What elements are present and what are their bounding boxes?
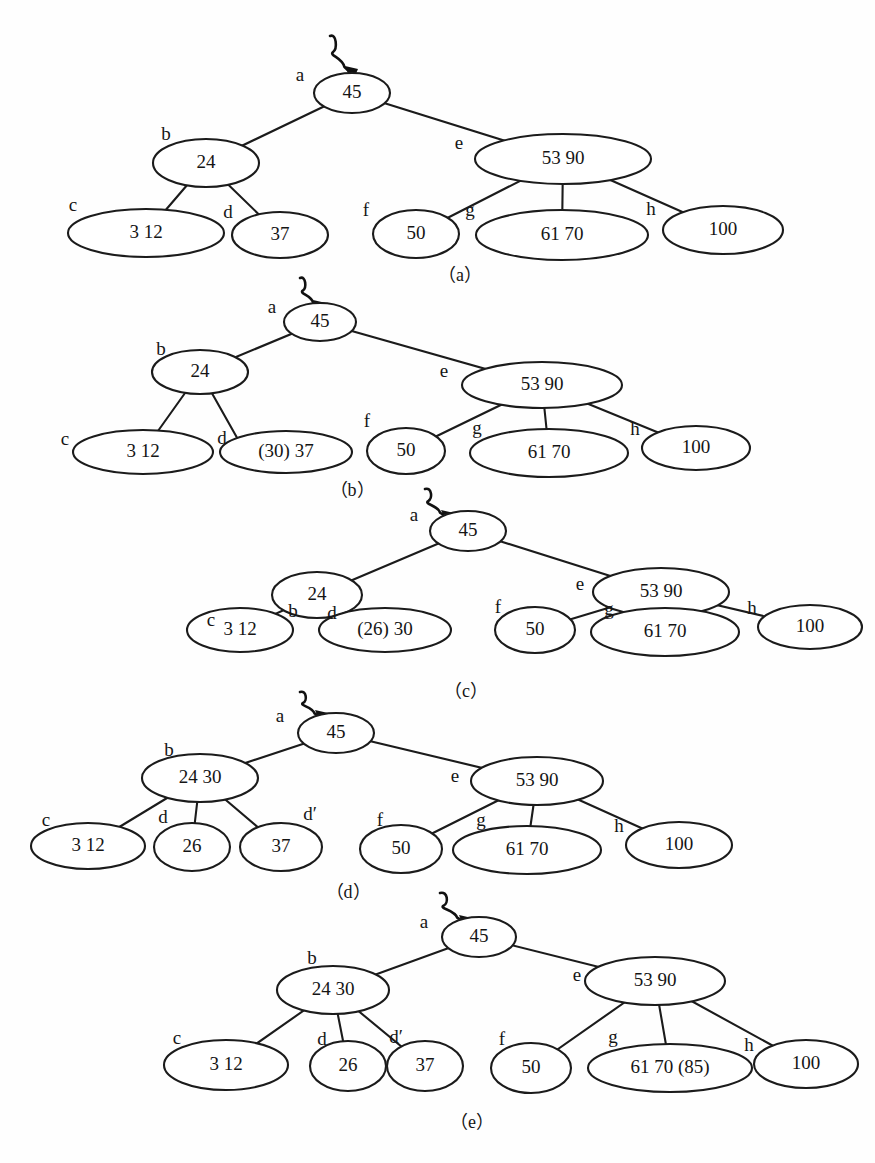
tree-node-d-b[interactable]: 24 30b — [142, 739, 258, 802]
node-keys-label: 50 — [407, 222, 426, 243]
node-keys-label: 24 30 — [312, 978, 355, 999]
panel-a: 45a24b53 90e3 12c37d50f61 70g100h（a） — [68, 36, 783, 286]
tree-node-a-b[interactable]: 24b — [153, 123, 259, 187]
tree-node-e-b[interactable]: 24 30b — [277, 947, 389, 1014]
node-keys-label: 61 70 — [528, 441, 571, 462]
panel-c: 45a24b53 90e3 12c(26) 30d50f61 70g100h（c… — [187, 489, 862, 701]
node-tag-label: f — [377, 809, 384, 830]
node-keys-label: 37 — [271, 223, 290, 244]
tree-node-a-h[interactable]: 100h — [646, 198, 783, 254]
tree-node-d-e[interactable]: 53 90e — [451, 757, 603, 805]
tree-node-a-g[interactable]: 61 70g — [465, 199, 648, 260]
node-keys-label: 50 — [392, 837, 411, 858]
tree-node-d-d[interactable]: 26d — [154, 806, 230, 871]
tree-node-b-a[interactable]: 45a — [268, 296, 356, 341]
tree-node-c-h[interactable]: 100h — [747, 597, 862, 649]
tree-node-d-g[interactable]: 61 70g — [453, 809, 601, 874]
tree-node-a-f[interactable]: 50f — [363, 199, 459, 258]
node-keys-label: 61 70 (85) — [630, 1056, 709, 1078]
node-tag-label: e — [451, 765, 459, 786]
node-keys-label: 3 12 — [129, 221, 162, 242]
node-keys-label: 50 — [397, 439, 416, 460]
tree-node-e-d2[interactable]: 37d′ — [387, 1026, 463, 1091]
node-tag-label: b — [307, 947, 317, 968]
node-tag-label: d — [317, 1028, 327, 1049]
node-tag-label: b — [288, 600, 298, 621]
panel-d: 45a24 30b53 90e3 12c26d37d′50f61 70g100h… — [31, 692, 732, 902]
tree-node-b-c[interactable]: 3 12c — [61, 428, 213, 474]
tree-node-d-d2[interactable]: 37d′ — [240, 803, 322, 871]
node-tag-label: d — [158, 806, 168, 827]
tree-node-c-a[interactable]: 45a — [410, 504, 506, 551]
tree-node-c-f[interactable]: 50f — [495, 596, 575, 653]
tree-node-e-e[interactable]: 53 90e — [573, 957, 725, 1005]
node-keys-label: 100 — [665, 833, 694, 854]
panel-caption-a: （a） — [438, 265, 482, 285]
tree-node-b-e[interactable]: 53 90e — [440, 360, 622, 408]
node-tag-label: e — [440, 360, 448, 381]
node-tag-label: d — [217, 427, 227, 448]
tree-node-e-d[interactable]: 26d — [310, 1028, 386, 1091]
node-tag-label: a — [276, 705, 285, 726]
node-tag-label: a — [268, 296, 277, 317]
tree-node-b-d[interactable]: (30) 37d — [217, 427, 352, 473]
tree-node-c-c[interactable]: 3 12c — [187, 608, 293, 652]
node-keys-label: 100 — [792, 1052, 821, 1073]
tree-node-d-c[interactable]: 3 12c — [31, 809, 145, 869]
node-tag-label: b — [161, 123, 171, 144]
node-tag-label: a — [410, 504, 419, 525]
node-tag-label: h — [747, 597, 757, 618]
tree-node-b-g[interactable]: 61 70g — [470, 417, 628, 477]
node-tag-label: f — [364, 410, 371, 431]
node-tag-label: c — [173, 1027, 181, 1048]
tree-node-a-a[interactable]: 45a — [296, 64, 390, 113]
node-keys-label: 53 90 — [640, 580, 683, 601]
node-keys-label: 53 90 — [634, 969, 677, 990]
node-keys-label: 3 12 — [223, 618, 256, 639]
node-keys-label: 24 — [308, 583, 328, 604]
node-tag-label: d — [223, 201, 233, 222]
tree-node-e-h[interactable]: 100h — [744, 1034, 858, 1088]
node-keys-label: 26 — [183, 835, 202, 856]
tree-node-e-f[interactable]: 50f — [491, 1028, 571, 1093]
tree-node-e-a[interactable]: 45a — [420, 911, 516, 957]
tree-node-a-d[interactable]: 37d — [223, 201, 328, 258]
node-keys-label: 26 — [339, 1054, 358, 1075]
node-tag-label: c — [61, 428, 69, 449]
btree-figure-svg: 45a24b53 90e3 12c37d50f61 70g100h（a）45a2… — [0, 0, 875, 1163]
tree-node-c-g[interactable]: 61 70g — [591, 598, 739, 656]
tree-node-b-f[interactable]: 50f — [364, 410, 445, 474]
node-keys-label: 37 — [272, 835, 291, 856]
node-keys-label: 24 — [197, 151, 217, 172]
node-keys-label: 53 90 — [542, 147, 585, 168]
node-keys-label: 100 — [709, 218, 738, 239]
node-tag-label: f — [363, 199, 370, 220]
node-tag-label: b — [164, 739, 174, 760]
tree-node-b-b[interactable]: 24b — [152, 338, 248, 394]
node-keys-label: 50 — [526, 618, 545, 639]
node-tag-label: g — [472, 417, 482, 438]
tree-node-e-c[interactable]: 3 12c — [164, 1027, 288, 1090]
node-keys-label: 45 — [459, 519, 478, 540]
tree-node-e-g[interactable]: 61 70 (85)g — [588, 1026, 752, 1092]
node-tag-label: d — [327, 602, 337, 623]
node-keys-label: 37 — [416, 1054, 435, 1075]
tree-node-b-h[interactable]: 100h — [630, 418, 750, 470]
panel-caption-e: （e） — [450, 1112, 494, 1132]
node-keys-label: 45 — [327, 721, 346, 742]
node-keys-label: 100 — [796, 615, 825, 636]
node-keys-label: (30) 37 — [258, 440, 313, 462]
node-tag-label: e — [576, 573, 584, 594]
node-keys-label: 50 — [522, 1056, 541, 1077]
tree-node-a-c[interactable]: 3 12c — [68, 194, 224, 257]
node-keys-label: 45 — [470, 925, 489, 946]
node-keys-label: 61 70 — [506, 838, 549, 859]
tree-node-a-e[interactable]: 53 90e — [455, 132, 651, 184]
node-keys-label: 53 90 — [521, 373, 564, 394]
node-tag-label: d′ — [303, 803, 317, 824]
node-keys-label: 61 70 — [644, 620, 687, 641]
node-tag-label: h — [744, 1034, 754, 1055]
panel-caption-c: （c） — [444, 681, 488, 701]
node-keys-label: 24 30 — [179, 766, 222, 787]
tree-node-d-f[interactable]: 50f — [360, 809, 442, 873]
